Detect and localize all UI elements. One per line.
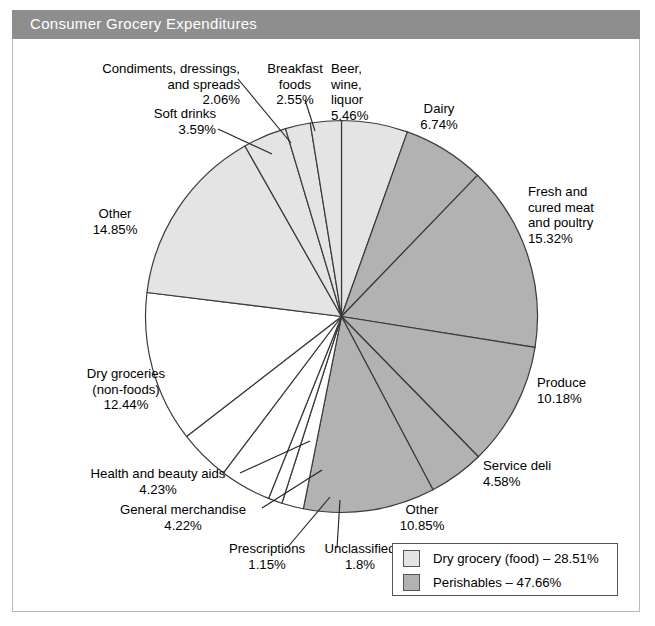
legend-swatch-perishables — [403, 574, 420, 591]
slice-label-breakfast-foods: Breakfast foods 2.55% — [245, 61, 345, 108]
slice-label-other-dry-grocery: Other 14.85% — [70, 206, 160, 237]
slice-label-fresh-meat: Fresh and cured meat and poultry 15.32% — [528, 184, 646, 246]
slice-label-soft-drinks: Soft drinks 3.59% — [88, 106, 216, 137]
legend: Dry grocery (food) – 28.51% Perishables … — [392, 543, 618, 596]
legend-item-perishables[interactable]: Perishables – 47.66% — [403, 570, 561, 594]
figure-container: Consumer Grocery Expenditures Condiments… — [0, 0, 655, 626]
pie-slices-group — [146, 121, 538, 513]
slice-label-dry-groceries: Dry groceries (non-foods) 12.44% — [56, 366, 196, 413]
slice-label-general-merchandise: General merchandise 4.22% — [98, 502, 268, 533]
legend-label-perishables: Perishables – 47.66% — [433, 575, 561, 590]
slice-label-dairy: Dairy 6.74% — [398, 101, 480, 132]
legend-swatch-dry-grocery — [403, 550, 420, 567]
slice-label-condiments: Condiments, dressings, and spreads 2.06% — [44, 61, 240, 108]
slice-label-prescriptions: Prescriptions 1.15% — [212, 541, 322, 572]
legend-item-dry-grocery[interactable]: Dry grocery (food) – 28.51% — [403, 546, 599, 570]
legend-label-dry-grocery: Dry grocery (food) – 28.51% — [433, 551, 599, 566]
slice-label-produce: Produce 10.18% — [537, 375, 647, 406]
slice-label-service-deli: Service deli 4.58% — [483, 458, 599, 489]
slice-label-health-beauty-aids: Health and beauty aids 4.23% — [68, 466, 248, 497]
slice-label-other-perishables: Other 10.85% — [376, 502, 468, 533]
